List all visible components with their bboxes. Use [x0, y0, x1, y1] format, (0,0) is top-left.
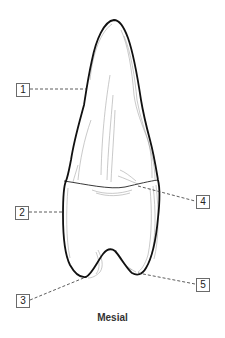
crown-detail-lines — [67, 185, 158, 278]
label-3: 3 — [16, 294, 30, 308]
label-1: 1 — [16, 83, 30, 97]
root-detail-lines — [73, 24, 155, 184]
leader-line-4 — [138, 186, 195, 201]
label-5: 5 — [196, 278, 210, 292]
label-4: 4 — [196, 195, 210, 209]
leader-line-3 — [30, 277, 86, 300]
tooth-diagram — [0, 0, 225, 338]
label-2: 2 — [15, 206, 29, 220]
leader-lines — [29, 89, 195, 300]
view-caption: Mesial — [0, 312, 225, 323]
tooth-outline — [63, 20, 160, 277]
leader-line-5 — [138, 273, 195, 284]
